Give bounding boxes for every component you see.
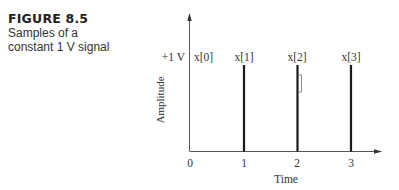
x-axis-arrow-icon xyxy=(374,149,382,153)
x-axis-label: Time xyxy=(274,173,298,185)
x-tick-2: 2 xyxy=(294,157,300,169)
y-axis-label: Amplitude xyxy=(154,76,166,123)
x-tick-1: 1 xyxy=(241,157,247,169)
x-tick-0: 0 xyxy=(187,157,193,169)
stem-2-marker xyxy=(299,75,302,92)
sample-label-1: x[1] xyxy=(234,51,253,63)
stem-chart: Amplitude +1 V x[0] x[1] x[2] x[3] 0 1 2… xyxy=(0,0,399,190)
x-tick-3: 3 xyxy=(348,157,354,169)
sample-label-2: x[2] xyxy=(287,51,306,63)
sample-label-3: x[3] xyxy=(341,51,360,63)
y-axis-arrow-icon xyxy=(187,13,191,21)
sample-label-0: x[0] xyxy=(194,51,213,63)
y-tick-label: +1 V xyxy=(162,51,186,63)
